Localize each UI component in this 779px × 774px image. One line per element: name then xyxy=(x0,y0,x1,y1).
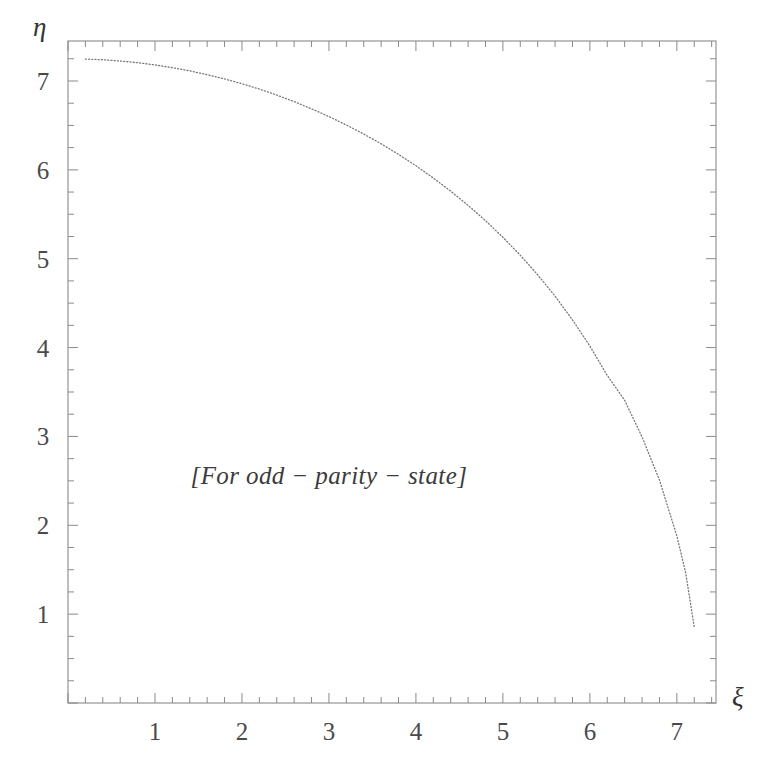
x-tick-label: 4 xyxy=(410,719,423,744)
y-tick-label: 3 xyxy=(37,424,50,449)
y-tick-label: 5 xyxy=(37,246,50,271)
x-axis-label: ξ xyxy=(732,684,744,711)
plot-frame xyxy=(68,41,716,703)
x-tick-label: 3 xyxy=(323,719,336,744)
x-tick-label: 2 xyxy=(236,719,249,744)
y-tick-label: 2 xyxy=(37,513,50,538)
y-tick-label: 6 xyxy=(37,157,50,182)
curve-polyline xyxy=(85,59,694,627)
frame-rect xyxy=(68,41,716,703)
y-axis-label: η xyxy=(33,14,46,41)
chart-canvas: η ξ [For odd − parity − state] 1234567 1… xyxy=(0,0,779,774)
y-tick-label: 7 xyxy=(37,68,50,93)
axis-ticks xyxy=(68,41,716,703)
x-tick-label: 7 xyxy=(671,719,684,744)
chart-annotation: [For odd − parity − state] xyxy=(191,462,468,490)
curve-odd-parity xyxy=(85,59,694,627)
y-tick-label: 1 xyxy=(37,602,50,627)
y-tick-label: 4 xyxy=(37,335,50,360)
x-tick-label: 5 xyxy=(497,719,510,744)
x-tick-label: 1 xyxy=(149,719,162,744)
x-tick-label: 6 xyxy=(584,719,597,744)
plot-area xyxy=(0,0,779,774)
